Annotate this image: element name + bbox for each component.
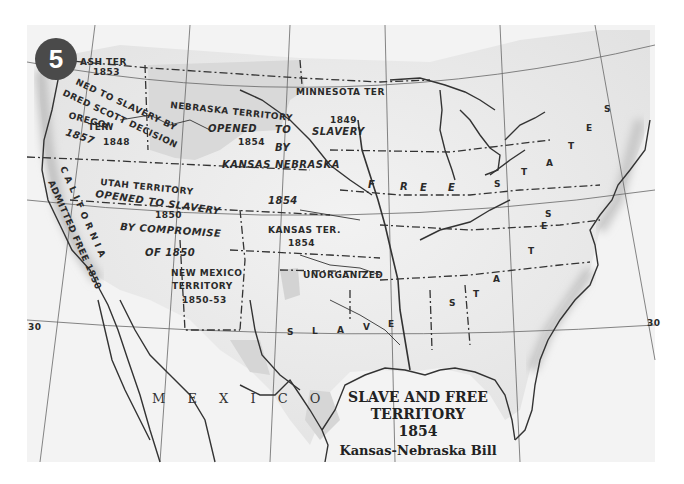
mexico-label: M E X I C O [152, 391, 329, 406]
slave-states-letter: S [449, 298, 456, 308]
title-year: 1854 [399, 423, 438, 439]
new-mexico-territory: TERRITORY [172, 281, 233, 291]
slave-states-letter: T [473, 289, 480, 299]
slave-states-letter: T [528, 246, 535, 256]
lat-30-left: 30 [28, 322, 42, 332]
free-states-letter: S [494, 179, 501, 189]
lat-30-right: 30 [647, 318, 661, 328]
free-states-letter: E [586, 123, 593, 133]
free-states-letter: S [604, 104, 611, 114]
title-line1: SLAVE AND FREE [348, 389, 488, 405]
wash-ter-label: ASH TER [80, 57, 127, 67]
kansas-ter-label: KANSAS TER. [268, 225, 341, 235]
kansas-year: 1854 [288, 238, 315, 248]
title-subtitle: Kansas-Nebraska Bill [339, 443, 496, 458]
title-line2: TERRITORY [371, 406, 467, 422]
nebraska-by: BY [275, 142, 292, 153]
free-states-letter: E [448, 182, 455, 193]
oregon-ter: TER. [88, 122, 113, 132]
unorganized-label: UNORGANIZED [303, 270, 383, 280]
free-states-letter: T [521, 167, 528, 177]
free-states-letter: E [420, 182, 427, 193]
slave-states-letter: S [545, 209, 552, 219]
slave-states-letter: E [541, 221, 548, 231]
slave-states-letter: L [312, 326, 318, 336]
slave-free-territory-map: ASH TER 1853 NED TO SLAVERY BY DRED SCOT… [0, 0, 684, 484]
minnesota-ter-label: MINNESOTA TER [296, 87, 385, 97]
nebraska-opened: OPENED [208, 123, 257, 134]
slave-states-letter: V [363, 322, 370, 332]
free-states-letter: A [546, 158, 553, 168]
nebraska-year: 1854 [238, 137, 265, 147]
minnesota-slavery: SLAVERY [312, 126, 366, 137]
new-mexico-label: NEW MEXICO [171, 268, 242, 278]
utah-year: 1850 [155, 210, 182, 220]
minnesota-year: 1849 [330, 115, 357, 125]
free-states-letter: T [568, 141, 575, 151]
free-states-letter: F [368, 179, 375, 190]
slave-states-letter: A [493, 274, 500, 284]
figure-number-badge: 5 [35, 38, 77, 80]
free-states-letter: R [400, 181, 408, 192]
kansas-nebraska-bill-label: KANSAS NEBRASKA [222, 159, 340, 170]
new-mexico-years: 1850-53 [182, 295, 227, 305]
wash-ter-year: 1853 [93, 67, 120, 77]
oregon-year: 1848 [103, 137, 130, 147]
bill-year: 1854 [268, 195, 298, 206]
nebraska-to: TO [275, 124, 291, 135]
slave-states-letter: A [337, 325, 344, 335]
utah-of-1850: OF 1850 [145, 247, 195, 258]
slave-states-letter: E [388, 319, 395, 329]
slave-states-letter: S [287, 327, 294, 337]
